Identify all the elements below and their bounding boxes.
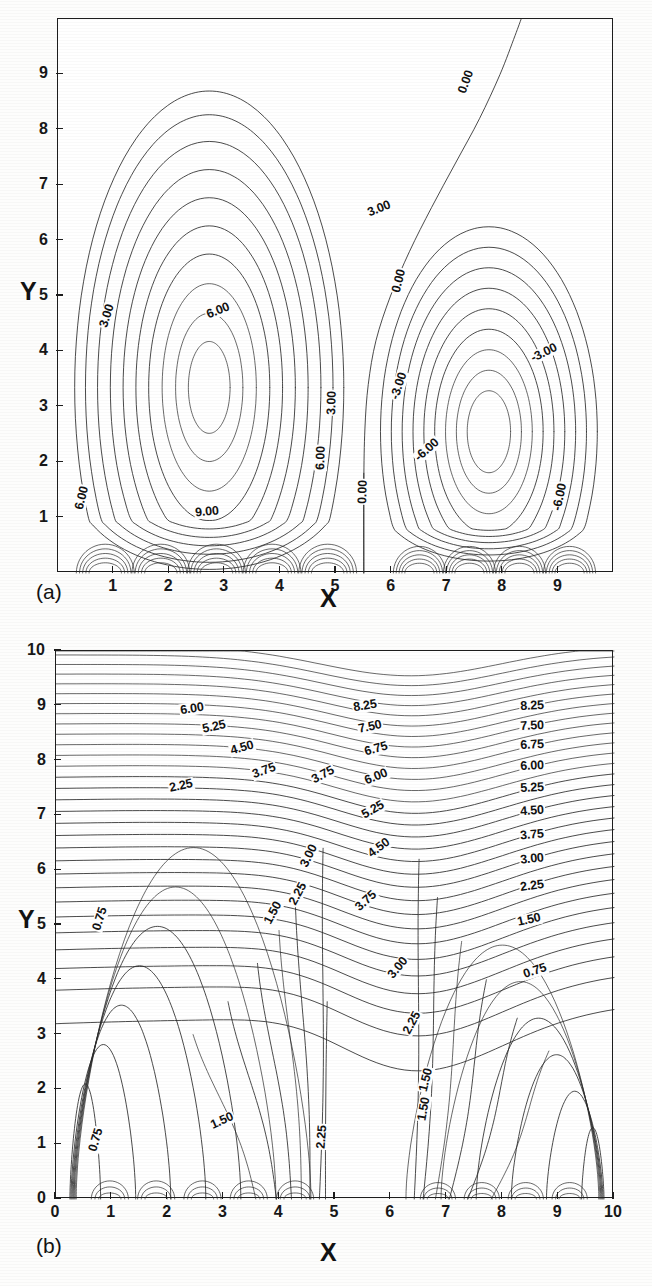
x-tick (110, 1192, 111, 1199)
contour-path (559, 1194, 580, 1199)
y-tick (56, 128, 63, 129)
x-tick-label: 8 (497, 1204, 506, 1220)
contour-path (491, 1051, 549, 1199)
contour-label: 2.25 (314, 1123, 329, 1149)
contour-path (402, 559, 437, 573)
y-tick (56, 239, 63, 240)
x-tick-label: 9 (553, 578, 562, 594)
contour-path (424, 309, 554, 537)
x-tick-label: 4 (274, 1204, 283, 1220)
contour-path (145, 563, 177, 573)
contour-path (145, 1193, 167, 1199)
contour-path (72, 1005, 171, 1199)
x-tick-label: 3 (218, 1204, 227, 1220)
plot-frame-a (57, 18, 613, 572)
x-axis-title-a: X (320, 584, 337, 613)
contour-path (435, 941, 461, 1199)
contour-path (176, 313, 243, 461)
y-tick-label: 5 (39, 287, 48, 303)
contour-path (253, 558, 292, 573)
y-tick-label: 2 (39, 453, 48, 469)
y-tick (54, 1033, 61, 1034)
y-tick-label: 4 (37, 971, 46, 987)
x-tick (334, 566, 335, 573)
panel-a: 123456789123456789 3.003.006.006.009.003… (0, 0, 652, 620)
y-tick (54, 1088, 61, 1089)
contour-path (502, 559, 537, 573)
x-tick (168, 566, 169, 573)
x-tick-label: 1 (106, 1204, 115, 1220)
x-tick (390, 566, 391, 573)
contour-label: 3.75 (519, 828, 546, 843)
contour-label: 8.25 (519, 699, 545, 713)
panel-b: 012345678910012345678910 6.005.254.503.7… (0, 620, 652, 1286)
caption-remnant (28, 1268, 628, 1284)
y-tick-label: 8 (37, 752, 46, 768)
x-tick (445, 1192, 446, 1199)
contour-label: 7.50 (519, 718, 545, 732)
y-tick-label: 3 (39, 398, 48, 414)
y-tick (56, 294, 63, 295)
y-tick (56, 405, 63, 406)
contour-lines-a (58, 19, 614, 573)
contour-label: 6.00 (314, 445, 328, 471)
contour-label: 5.25 (519, 781, 545, 795)
contour-path (200, 563, 232, 573)
x-tick-label: 0 (51, 1204, 60, 1220)
contour-path (230, 1181, 267, 1199)
x-tick (279, 566, 280, 573)
contour-path (555, 563, 584, 573)
contour-path (505, 563, 534, 573)
contour-path (75, 91, 344, 569)
y-tick-label: 1 (37, 1135, 46, 1151)
x-tick (557, 1192, 558, 1199)
y-tick (54, 814, 61, 815)
contour-path (149, 254, 270, 520)
x-tick-label: 3 (219, 578, 228, 594)
contour-path (56, 664, 614, 695)
contour-path (277, 1181, 314, 1199)
y-tick-label: 9 (39, 65, 48, 81)
x-tick (222, 1192, 223, 1199)
y-tick (56, 350, 63, 351)
y-axis-title-a: Y (20, 277, 37, 306)
contour-path (456, 370, 521, 493)
y-tick (54, 759, 61, 760)
panel-tag-b: (b) (36, 1234, 62, 1258)
x-tick-label: 2 (162, 1204, 171, 1220)
contour-path (311, 563, 343, 573)
contour-path (188, 341, 230, 433)
x-tick-label: 9 (553, 1204, 562, 1220)
contour-path (476, 1018, 601, 1199)
contour-path (464, 1183, 499, 1199)
contour-path (406, 945, 599, 1199)
x-tick-label: 6 (385, 1204, 394, 1220)
contour-path (256, 563, 288, 573)
y-tick (54, 1143, 61, 1144)
y-tick-label: 6 (39, 232, 48, 248)
contour-path (86, 558, 125, 573)
x-tick-label: 7 (442, 578, 451, 594)
contour-path (56, 1010, 614, 1071)
y-tick-label: 9 (37, 697, 46, 713)
x-tick (223, 566, 224, 573)
y-axis-title-b: Y (18, 905, 35, 934)
y-tick (56, 184, 63, 185)
x-tick-label: 5 (330, 1204, 339, 1220)
contour-path (98, 141, 321, 554)
contour-path (142, 558, 181, 573)
y-tick-label: 6 (37, 861, 46, 877)
y-tick-label: 7 (37, 806, 46, 822)
x-tick (446, 566, 447, 573)
x-tick (166, 1192, 167, 1199)
contour-path (468, 1018, 517, 1199)
x-tick-label: 4 (275, 578, 284, 594)
y-tick-label: 10 (27, 642, 45, 658)
contour-path (446, 350, 533, 514)
contour-path (511, 1055, 602, 1199)
contour-label: 4.50 (519, 804, 545, 819)
contour-path (471, 1194, 492, 1199)
contour-path (191, 1193, 213, 1199)
contour-path (435, 329, 543, 530)
contour-path (73, 966, 206, 1199)
